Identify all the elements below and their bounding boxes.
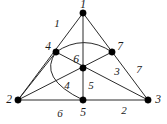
vertex-label-3: 3 xyxy=(154,93,161,105)
vertex-label-2: 2 xyxy=(6,93,12,105)
edge-labels-group: 1 7 3 5 4 2 6 xyxy=(54,17,142,119)
graph-diagram-canvas: 1 2 3 4 5 6 7 1 7 3 5 4 2 6 xyxy=(0,0,167,124)
vertex-dot-7 xyxy=(109,49,115,55)
vertex-label-5: 5 xyxy=(80,106,86,118)
vertex-dot-6 xyxy=(80,65,86,71)
edge-label-1: 1 xyxy=(54,17,60,29)
edge-label-2: 2 xyxy=(121,104,127,116)
vertex-label-4: 4 xyxy=(45,40,51,52)
vertex-label-6: 6 xyxy=(73,53,79,65)
edge-label-3: 3 xyxy=(113,65,120,77)
vertex-dot-4 xyxy=(53,49,59,55)
edge-label-6: 6 xyxy=(57,107,63,119)
arc-4-7 xyxy=(56,43,112,53)
edge-label-7: 7 xyxy=(136,63,142,75)
edge-label-4: 4 xyxy=(64,79,70,91)
vertex-dot-3 xyxy=(145,97,151,103)
edge-label-5: 5 xyxy=(88,79,94,91)
vertex-label-7: 7 xyxy=(117,40,124,52)
vertex-dot-1 xyxy=(80,10,86,16)
edge-2-7 xyxy=(18,52,112,100)
graph-svg: 1 2 3 4 5 6 7 1 7 3 5 4 2 6 xyxy=(0,0,167,124)
vertex-label-1: 1 xyxy=(80,0,86,10)
edge-2-4 xyxy=(18,52,56,100)
vertex-dot-2 xyxy=(15,97,21,103)
edges-group xyxy=(18,13,148,100)
vertex-dot-5 xyxy=(80,97,86,103)
